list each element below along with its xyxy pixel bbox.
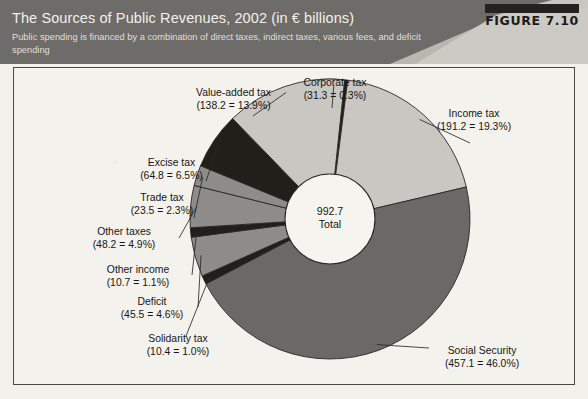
callout-social-security-label: Social Security xyxy=(412,345,552,358)
callout-solidarity-tax-label: Solidarity tax xyxy=(118,333,238,346)
callout-solidarity-tax-value: (10.4 = 1.0%) xyxy=(118,346,238,359)
callout-income-tax-label: Income tax xyxy=(409,108,539,121)
figure-number: FIGURE 7.10 xyxy=(485,13,579,28)
callout-corporate-tax: Corporate tax (31.3 = 0.3%) xyxy=(275,77,395,102)
callout-other-taxes: Other taxes (48.2 = 4.9%) xyxy=(65,226,183,251)
callout-excise-tax-label: Excise tax xyxy=(114,157,229,170)
callout-income-tax-value: (191.2 = 19.3%) xyxy=(409,121,539,134)
center-total-value: 992.7 xyxy=(317,205,344,217)
figure-subtitle: Public spending is financed by a combina… xyxy=(12,31,442,56)
callout-social-security-value: (457.1 = 46.0%) xyxy=(412,358,552,371)
chart-panel: 992.7 Total Value-added tax (138.2 = 13.… xyxy=(13,67,575,385)
donut-center-label: 992.7 Total xyxy=(290,205,370,231)
callout-trade-tax: Trade tax (23.5 = 2.3%) xyxy=(106,192,218,217)
callout-deficit-value: (45.5 = 4.6%) xyxy=(99,309,205,322)
callout-other-income: Other income (10.7 = 1.1%) xyxy=(77,264,199,289)
callout-other-taxes-value: (48.2 = 4.9%) xyxy=(65,239,183,252)
callout-deficit: Deficit (45.5 = 4.6%) xyxy=(99,296,205,321)
figure-header: The Sources of Public Revenues, 2002 (in… xyxy=(0,0,588,64)
callout-other-taxes-label: Other taxes xyxy=(65,226,183,239)
figure-label-bar xyxy=(485,4,579,13)
callout-social-security: Social Security (457.1 = 46.0%) xyxy=(412,345,552,370)
page-title: The Sources of Public Revenues, 2002 (in… xyxy=(12,10,354,26)
callout-trade-tax-label: Trade tax xyxy=(106,192,218,205)
callout-trade-tax-value: (23.5 = 2.3%) xyxy=(106,205,218,218)
callout-corporate-tax-value: (31.3 = 0.3%) xyxy=(275,90,395,103)
center-total-caption: Total xyxy=(319,218,341,230)
callout-other-income-label: Other income xyxy=(77,264,199,277)
callout-other-income-value: (10.7 = 1.1%) xyxy=(77,277,199,290)
callout-corporate-tax-label: Corporate tax xyxy=(275,77,395,90)
callout-income-tax: Income tax (191.2 = 19.3%) xyxy=(409,108,539,133)
callout-excise-tax-value: (64.8 = 6.5%) xyxy=(114,170,229,183)
callout-deficit-label: Deficit xyxy=(99,296,205,309)
figure-root: The Sources of Public Revenues, 2002 (in… xyxy=(0,0,588,399)
callout-excise-tax: Excise tax (64.8 = 6.5%) xyxy=(114,157,229,182)
callout-solidarity-tax: Solidarity tax (10.4 = 1.0%) xyxy=(118,333,238,358)
